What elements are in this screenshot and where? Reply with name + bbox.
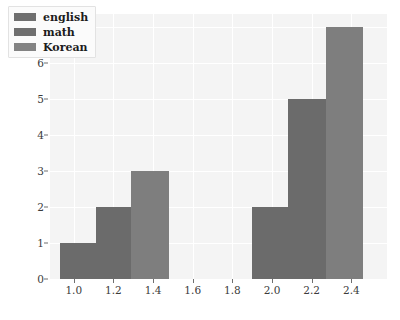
x-tick-mark	[74, 279, 75, 283]
x-tick-label: 2.0	[252, 285, 292, 296]
y-tick-mark	[44, 98, 48, 99]
legend-swatch-icon	[14, 28, 36, 36]
chart-figure: 01234567 1.01.21.41.61.82.02.22.4 englis…	[0, 0, 400, 320]
legend-label: math	[43, 27, 75, 38]
x-tick-label: 2.2	[292, 285, 332, 296]
y-tick-label: 4	[4, 130, 44, 141]
legend-label: Korean	[43, 42, 88, 53]
x-tick-label: 2.4	[331, 285, 371, 296]
x-tick-label: 1.2	[93, 285, 133, 296]
plot-area	[50, 14, 387, 279]
x-tick-mark	[113, 279, 114, 283]
gridline-vertical	[193, 14, 194, 279]
y-tick-mark	[44, 206, 48, 207]
bar	[60, 243, 96, 279]
x-tick-label: 1.6	[173, 285, 213, 296]
y-tick-label: 3	[4, 166, 44, 177]
x-tick-label: 1.8	[212, 285, 252, 296]
x-tick-mark	[272, 279, 273, 283]
y-tick-mark	[44, 134, 48, 135]
y-tick-label: 2	[4, 202, 44, 213]
y-tick-label: 0	[4, 274, 44, 285]
legend-swatch-icon	[14, 13, 36, 21]
x-tick-mark	[232, 279, 233, 283]
bar	[131, 171, 169, 279]
legend-label: english	[43, 12, 88, 23]
y-tick-mark	[44, 279, 48, 280]
y-tick-label: 1	[4, 238, 44, 249]
x-tick-label: 1.0	[54, 285, 94, 296]
y-tick-label: 5	[4, 93, 44, 104]
x-tick-label: 1.4	[133, 285, 173, 296]
gridline-vertical	[232, 14, 233, 279]
bar	[252, 207, 288, 279]
y-tick-mark	[44, 62, 48, 63]
chart-legend: englishmathKorean	[8, 6, 96, 58]
bar	[96, 207, 132, 279]
y-tick-label: 6	[4, 57, 44, 68]
legend-item[interactable]: english	[14, 11, 88, 23]
legend-item[interactable]: math	[14, 26, 88, 38]
bar	[326, 27, 364, 279]
bar	[288, 99, 326, 279]
y-tick-mark	[44, 242, 48, 243]
x-tick-mark	[153, 279, 154, 283]
x-tick-mark	[351, 279, 352, 283]
legend-swatch-icon	[14, 43, 36, 51]
legend-item[interactable]: Korean	[14, 41, 88, 53]
x-tick-mark	[193, 279, 194, 283]
x-tick-mark	[312, 279, 313, 283]
y-tick-mark	[44, 170, 48, 171]
